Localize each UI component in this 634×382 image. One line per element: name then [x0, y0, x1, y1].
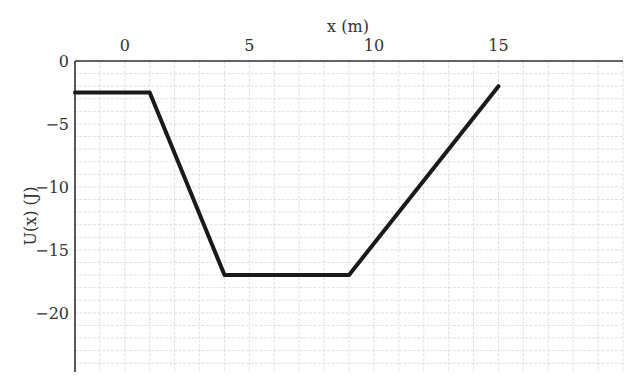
x-tick-label: 15: [488, 36, 508, 55]
x-axis-label: x (m): [327, 17, 369, 36]
y-tick-label: 0: [59, 52, 69, 71]
y-tick-label: −10: [35, 178, 69, 197]
x-tick-label: 0: [120, 36, 130, 55]
potential-energy-curve: [75, 86, 499, 275]
tick-labels: 0510150−5−10−15−20: [35, 36, 508, 323]
data-series: [75, 86, 499, 275]
x-tick-label: 10: [364, 36, 384, 55]
x-tick-label: 5: [244, 36, 254, 55]
y-tick-label: −15: [35, 241, 69, 260]
y-axis-label: U(x) (J): [21, 187, 40, 246]
chart-canvas: 0510150−5−10−15−20 x (m) U(x) (J): [0, 0, 634, 382]
y-tick-label: −20: [35, 304, 69, 323]
y-tick-label: −5: [45, 115, 69, 134]
